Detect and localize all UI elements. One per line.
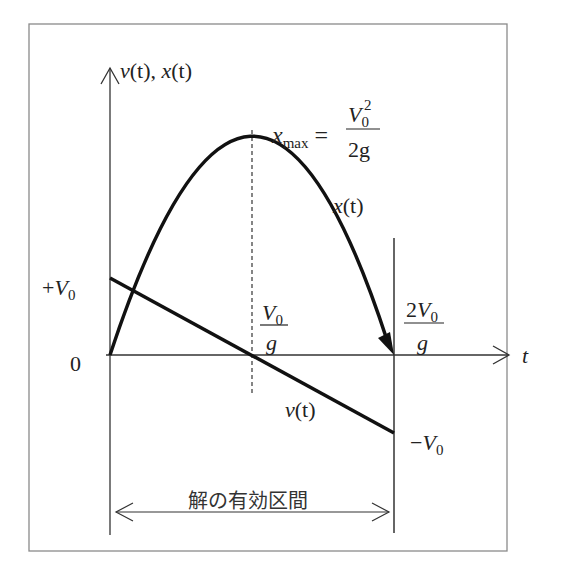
figure-frame <box>29 24 507 551</box>
svg-text:g: g <box>266 330 277 355</box>
origin-label: 0 <box>70 351 81 376</box>
svg-text:xmax=: xmax= <box>271 122 328 151</box>
x-axis <box>106 346 509 364</box>
valid-interval-label: 解の有効区間 <box>188 489 308 513</box>
v-line-label: v(t) <box>285 397 316 422</box>
v0-over-g-label: V0 g <box>260 300 288 355</box>
x-axis-label: t <box>522 343 529 368</box>
two-v0-over-g-label: 2V0 g <box>404 297 444 355</box>
svg-text:V02: V02 <box>348 97 371 130</box>
x-curve-arrowhead-icon <box>378 332 394 355</box>
plus-v0-label: +V0 <box>42 275 75 303</box>
y-axis-label: v(t), x(t) <box>120 58 192 83</box>
svg-text:2g: 2g <box>348 137 370 162</box>
diagram-canvas: v(t), x(t) t 0 +V0 −V0 V0 g 2V0 g xmax= … <box>0 0 573 572</box>
svg-text:V0: V0 <box>262 300 283 328</box>
svg-text:g: g <box>417 330 428 355</box>
minus-v0-label: −V0 <box>410 430 443 458</box>
x-curve-label: x(t) <box>332 193 364 218</box>
x-curve <box>110 136 387 355</box>
y-axis <box>101 68 119 535</box>
svg-text:2V0: 2V0 <box>406 297 438 325</box>
xmax-formula: xmax= V02 2g <box>271 97 380 162</box>
